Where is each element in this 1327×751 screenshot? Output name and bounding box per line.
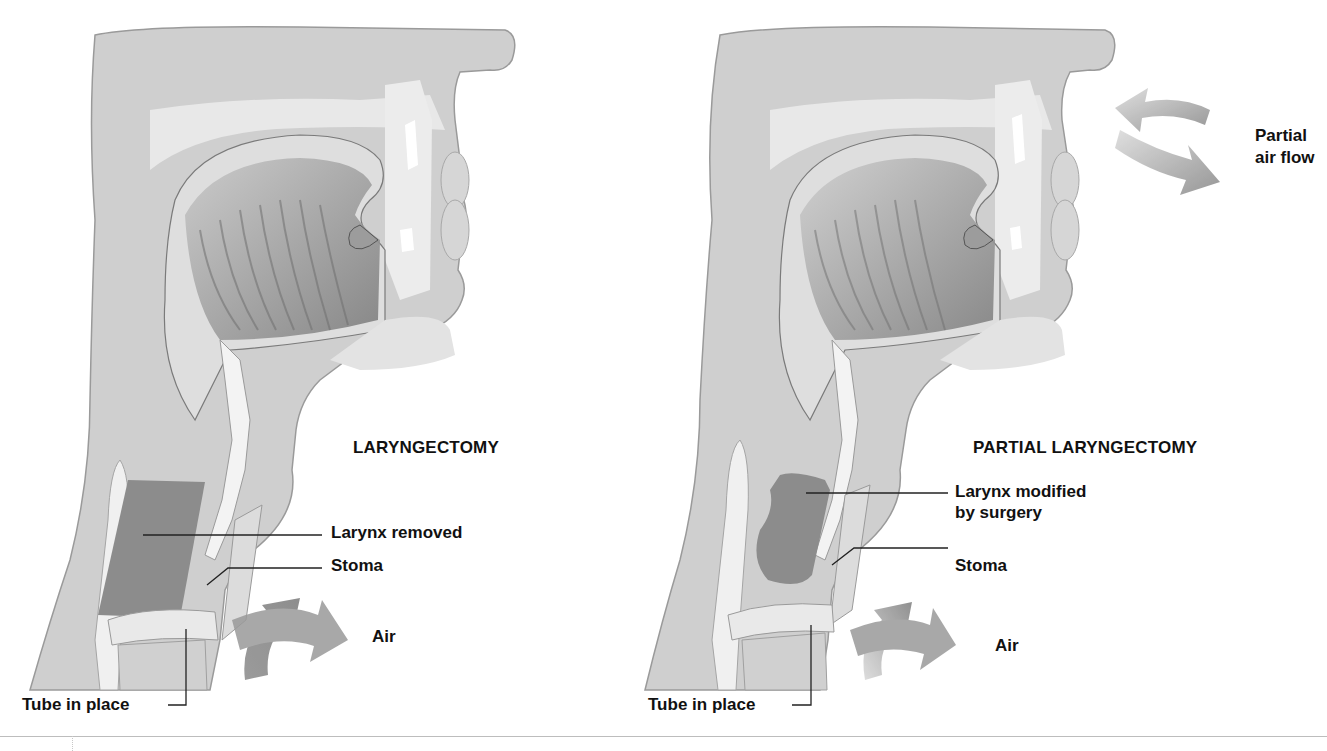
tracheostomy-tube [108,610,218,690]
air-flow-arrows [232,598,348,680]
footer-divider [0,736,1327,737]
laryngectomy-illustration [0,0,660,720]
tracheostomy-tube [728,604,834,690]
label-larynx-modified-line2: by surgery [955,503,1042,523]
label-larynx-modified-line1: Larynx modified [955,482,1086,502]
head-neck-silhouette [645,27,1115,690]
head-neck-silhouette [30,27,515,690]
air-flow-arrows [850,602,956,680]
footer-tick [72,736,73,751]
label-stoma: Stoma [331,556,383,576]
panel-laryngectomy: LARYNGECTOMY Larynx removed Stoma Air Tu… [0,0,660,720]
label-larynx-removed: Larynx removed [331,523,462,543]
panel-title: PARTIAL LARYNGECTOMY [973,438,1197,458]
label-tube-in-place: Tube in place [22,695,129,715]
label-tube-in-place: Tube in place [648,695,755,715]
label-air: Air [995,636,1019,656]
label-stoma: Stoma [955,556,1007,576]
panel-title: LARYNGECTOMY [353,438,499,458]
panel-partial-laryngectomy: PARTIAL LARYNGECTOMY Larynx modified by … [600,0,1327,720]
label-air: Air [372,627,396,647]
label-partial-air-flow-line1: Partial [1255,126,1307,146]
partial-laryngectomy-illustration [600,0,1327,720]
partial-air-flow-arrows [1115,88,1220,195]
label-partial-air-flow-line2: air flow [1255,148,1315,168]
